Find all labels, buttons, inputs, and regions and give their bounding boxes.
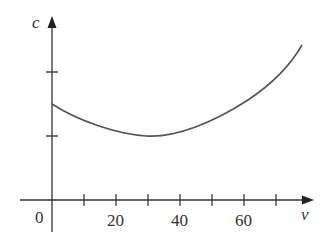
x-tick-label-40: 40 [171, 211, 188, 230]
chart: c 0 20 40 60 v [0, 0, 332, 242]
x-tick-label-20: 20 [107, 211, 124, 230]
y-axis-arrow-icon [48, 16, 57, 28]
y-axis-label: c [32, 13, 40, 32]
x-axis-label: v [301, 205, 309, 224]
origin-label: 0 [35, 208, 44, 227]
x-axis-arrow-icon [302, 196, 314, 205]
cost-curve [52, 45, 302, 136]
x-tick-label-60: 60 [235, 211, 252, 230]
